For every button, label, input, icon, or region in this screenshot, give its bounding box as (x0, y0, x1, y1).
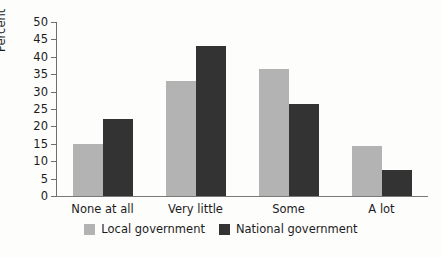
bar[interactable] (103, 119, 133, 196)
bar-group (335, 22, 428, 196)
y-tick-label-5: 5 (41, 172, 48, 186)
legend-swatch-icon (219, 224, 230, 235)
x-axis-label: None at all (56, 202, 149, 216)
bar[interactable] (73, 144, 103, 196)
bar[interactable] (166, 81, 196, 196)
y-tick-label-10: 10 (33, 154, 48, 168)
y-tick-label-45: 45 (33, 32, 48, 46)
bar[interactable] (289, 104, 319, 196)
y-tick-label-30: 30 (33, 85, 48, 99)
legend-item[interactable]: Local government (84, 222, 205, 236)
y-tick-label-15: 15 (33, 137, 48, 151)
legend-swatch-icon (84, 224, 95, 235)
legend-item[interactable]: National government (219, 222, 358, 236)
y-tick-label-20: 20 (33, 119, 48, 133)
y-tick-label-0: 0 (41, 189, 48, 203)
y-tick-label-35: 35 (33, 67, 48, 81)
y-tick-0 (51, 196, 56, 197)
x-axis-label: A lot (335, 202, 428, 216)
bar[interactable] (259, 69, 289, 196)
y-tick-label-25: 25 (33, 102, 48, 116)
bar-group (56, 22, 149, 196)
y-tick-label-40: 40 (33, 50, 48, 64)
x-axis-line (56, 196, 428, 197)
bar-group (242, 22, 335, 196)
bar[interactable] (382, 170, 412, 196)
legend-label: National government (236, 222, 358, 236)
x-axis-label: Some (242, 202, 335, 216)
bar-chart: Percent 05101520253035404550 None at all… (0, 0, 442, 258)
bar[interactable] (352, 146, 382, 196)
bar-group (149, 22, 242, 196)
bar[interactable] (196, 46, 226, 196)
legend-label: Local government (101, 222, 205, 236)
plot-area: None at allVery littleSomeA lot (56, 22, 428, 196)
y-tick-label-50: 50 (33, 15, 48, 29)
x-axis-label: Very little (149, 202, 242, 216)
y-axis-tick-labels: 05101520253035404550 (0, 22, 48, 196)
chart-legend: Local governmentNational government (0, 222, 442, 236)
